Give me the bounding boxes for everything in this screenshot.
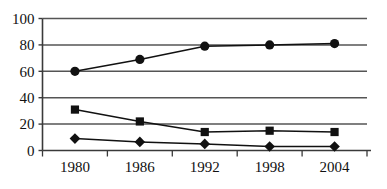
x-axis-label: 1986 <box>125 159 156 175</box>
data-point-square <box>136 117 144 125</box>
data-point-circle <box>70 67 79 76</box>
data-point-square <box>266 127 274 135</box>
data-point-circle <box>330 39 339 48</box>
y-axis-label: 20 <box>20 116 35 132</box>
x-axis-labels-group: 19801986199219982004 <box>60 159 350 175</box>
x-axis-label: 1998 <box>255 159 285 175</box>
data-point-square <box>201 128 209 136</box>
data-point-square <box>330 128 338 136</box>
data-point-circle <box>200 42 209 51</box>
y-axis-label: 40 <box>20 90 35 106</box>
gridlines-group <box>43 19 368 125</box>
data-point-diamond <box>135 137 146 148</box>
y-axis-label: 60 <box>20 64 35 80</box>
data-point-square <box>71 105 79 113</box>
x-axis-label: 1980 <box>60 159 90 175</box>
y-axis-label: 100 <box>12 11 35 27</box>
x-axis-label: 1992 <box>190 159 220 175</box>
line-chart: 020406080100 19801986199219982004 <box>0 0 387 189</box>
y-axis-label: 80 <box>20 37 35 53</box>
data-point-circle <box>265 40 274 49</box>
chart-canvas: 020406080100 19801986199219982004 <box>0 0 387 189</box>
y-axis-labels-group: 020406080100 <box>12 11 35 159</box>
x-axis-label: 2004 <box>320 159 351 175</box>
x-axis-ticks-group <box>43 151 368 157</box>
series-markers-group <box>70 39 340 152</box>
data-point-diamond <box>199 139 210 150</box>
data-point-diamond <box>70 133 81 144</box>
data-point-circle <box>135 55 144 64</box>
y-axis-label: 0 <box>27 143 35 159</box>
